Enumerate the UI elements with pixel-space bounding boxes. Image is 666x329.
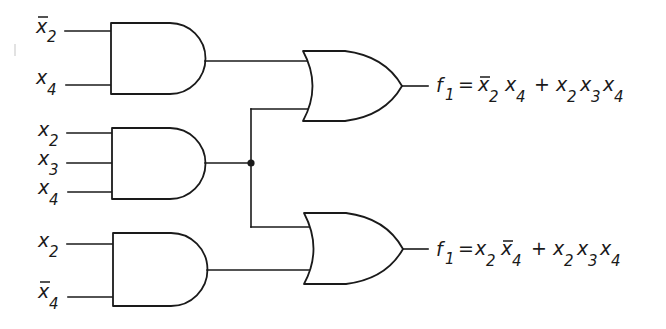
output-equation-1: f 1 = x 2 x 4 + x 2 x 3 x 4 [436,73,624,106]
or-gate-2-body [304,213,403,284]
svg-text:2: 2 [486,252,496,270]
and-gate-2: x 2 x 3 x 4 [37,118,206,209]
and-gate-2-body [112,128,206,199]
and-gate-3-body [113,233,207,306]
svg-text:3: 3 [49,161,59,179]
svg-text:=: = [458,73,474,95]
svg-text:4: 4 [516,88,526,106]
and-gate-1: x 2 x 4 [35,15,206,99]
svg-text:2: 2 [49,243,59,261]
input-label-and2-b: x 3 [37,147,59,179]
svg-text:4: 4 [47,81,57,99]
input-label-and1-b: x 4 [35,66,57,99]
svg-text:3: 3 [591,88,601,106]
junction-dot [247,159,254,166]
svg-text:4: 4 [49,191,59,209]
svg-text:2: 2 [47,28,57,46]
input-label-and2-a: x 2 [37,118,59,150]
input-label-and1-a: x 2 [35,15,57,46]
interconnect [205,61,311,270]
input-label-and2-c: x 4 [37,176,59,209]
svg-text:4: 4 [611,252,621,270]
svg-text:=: = [458,237,474,259]
svg-text:3: 3 [588,252,598,270]
svg-text:4: 4 [614,88,624,106]
logic-circuit-diagram: x 2 x 4 x 2 x 3 x 4 x 2 [0,0,666,329]
svg-text:+: + [531,237,547,259]
svg-text:2: 2 [49,132,59,150]
or-gate-2 [304,213,428,284]
svg-text:1: 1 [445,250,455,268]
and-gate-1-body [111,23,206,94]
svg-text:+: + [534,73,550,95]
svg-text:2: 2 [489,88,499,106]
or-gate-1 [303,51,428,121]
svg-text:1: 1 [445,86,455,104]
and-gate-3: x 2 x 4 [37,229,207,313]
svg-text:2: 2 [567,88,577,106]
svg-text:2: 2 [564,252,574,270]
or-gate-1-body [303,51,402,121]
input-label-and3-b: x 4 [37,280,59,313]
svg-text:4: 4 [512,252,522,270]
input-label-and3-a: x 2 [37,229,59,261]
svg-text:4: 4 [49,295,59,313]
output-equation-2: f 1 = x 2 x 4 + x 2 x 3 x 4 [436,237,621,270]
